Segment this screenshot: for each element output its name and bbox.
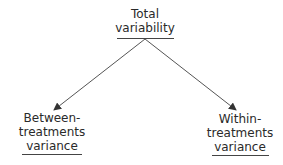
node-label-line: treatments bbox=[12, 125, 92, 139]
node-label-line: variance bbox=[12, 139, 92, 153]
edge-total-to-between bbox=[54, 39, 145, 110]
node-label-line: treatments bbox=[200, 126, 280, 140]
edge-total-to-within bbox=[145, 39, 236, 110]
node-within-treatments-variance: Within- treatments variance bbox=[200, 112, 280, 154]
node-label-line: variability bbox=[105, 21, 185, 35]
node-label-line: variance bbox=[200, 140, 280, 154]
node-total-variability: Total variability bbox=[105, 7, 185, 35]
node-label-line: Total bbox=[105, 7, 185, 21]
node-label-line: Within- bbox=[200, 112, 280, 126]
node-label-line: Between- bbox=[12, 111, 92, 125]
node-between-treatments-variance: Between- treatments variance bbox=[12, 111, 92, 153]
